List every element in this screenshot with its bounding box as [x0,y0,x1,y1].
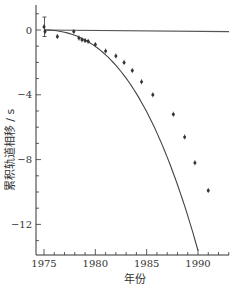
data-point [43,24,46,29]
chart: 0−4−8−121975198019851990 年份 累积轨道相移 / s [0,0,235,288]
y-axis-title: 累积轨道相移 / s [3,109,17,192]
data-point [123,60,126,65]
axes [36,5,229,255]
data-point [131,68,134,73]
data-point [56,34,59,39]
x-tick-label: 1975 [31,258,56,269]
y-tick-label: −12 [11,219,32,230]
x-tick-label: 1980 [83,258,108,269]
data-point [104,49,107,54]
series [43,17,230,250]
x-axis-title: 年份 [124,272,146,286]
data-point [84,38,87,43]
y-tick-label: −8 [17,154,32,165]
reference-line [44,30,229,32]
data-point [193,160,196,165]
x-tick-label: 1990 [185,258,210,269]
x-tick-label: 1985 [134,258,159,269]
data-point [183,134,186,139]
prediction-curve [44,30,198,251]
data-point [87,39,90,44]
data-point [172,112,175,117]
data-point [114,53,117,58]
data-point [207,188,210,193]
ticks: 0−4−8−121975198019851990 [11,14,229,269]
y-tick-label: 0 [26,25,32,36]
y-tick-label: −4 [17,89,32,100]
data-point [151,92,154,97]
data-point [140,79,143,84]
